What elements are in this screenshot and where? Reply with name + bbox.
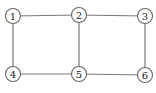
node-label: 4: [10, 69, 16, 80]
edge-5-6: [79, 74, 145, 75]
graph-diagram: 123456: [0, 0, 156, 93]
node-2: 2: [72, 8, 87, 23]
edge-1-2: [13, 15, 79, 16]
edge-2-3: [79, 15, 145, 16]
node-label: 1: [10, 11, 16, 22]
node-4: 4: [6, 67, 21, 82]
node-5: 5: [72, 67, 87, 82]
node-1: 1: [6, 9, 21, 24]
node-6: 6: [138, 68, 153, 83]
node-label: 5: [76, 69, 82, 80]
node-label: 3: [142, 11, 148, 22]
node-3: 3: [138, 9, 153, 24]
node-label: 6: [142, 70, 148, 81]
node-label: 2: [76, 10, 82, 21]
